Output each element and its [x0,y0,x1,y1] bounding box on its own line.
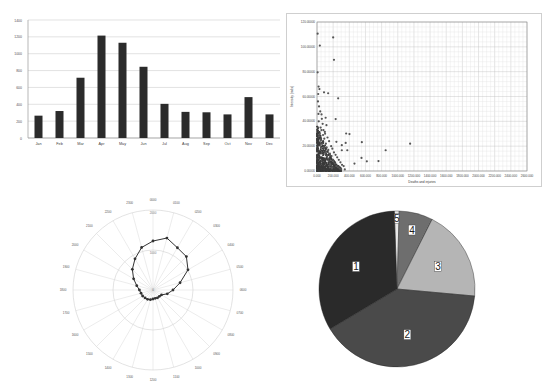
scatter-point [329,153,331,155]
ring-label: 2000 [150,211,157,215]
x-tick-label: Sep [203,142,210,146]
scatter-point [338,159,340,161]
y-axis-label: Intensity (rads) [290,86,294,107]
x-tick-label: Jun [140,142,146,146]
polar-axis-label: 2200 [105,210,112,214]
scatter-point [321,118,323,120]
scatter-point [340,168,342,170]
y-tick-label: 600 [16,86,22,90]
bar-feb [56,111,64,138]
polar-point [140,292,143,295]
pie-chart: 54321 [300,195,500,389]
scatter-point [366,160,368,162]
scatter-point [325,143,327,145]
scatter-point [319,158,321,160]
bar-chart: 0200400600800100012001400JanFebMarAprMay… [0,0,285,160]
scatter-point [330,155,332,157]
scatter-point [318,105,320,107]
scatter-point [320,136,322,138]
scatter-point [327,168,329,170]
polar-axis-label: 0900 [213,352,220,356]
polar-point [172,289,175,292]
scatter-point [320,139,322,141]
x-tick-label: Feb [56,142,63,146]
scatter-point [324,133,326,135]
scatter-point [317,145,319,147]
x-tick-label: Mar [77,142,84,146]
scatter-point [316,139,318,141]
scatter-point [325,117,327,119]
polar-axis-label: 0200 [195,210,202,214]
y-tick-label: 40.00000 [302,119,315,123]
scatter-point [335,141,337,143]
scatter-point [317,71,319,73]
scatter-chart-panel: 0.0000020.0000040.0000060.0000080.000001… [286,13,542,187]
scatter-point [323,168,325,170]
bar-may [119,43,127,138]
scatter-point [327,149,329,151]
scatter-point [317,150,319,152]
x-tick-label: 1400.000 [424,174,437,178]
x-axis-label: Deaths and injuries [408,180,436,184]
scatter-point [345,132,347,134]
y-tick-label: 60.00000 [302,95,315,99]
scatter-point [332,36,334,38]
scatter-point [317,100,319,102]
bar-aug [182,112,190,138]
scatter-point [317,146,319,148]
scatter-point [325,170,327,172]
scatter-point [317,113,319,115]
y-tick-label: 1200 [14,35,22,39]
polar-axis-label: 0300 [213,224,220,228]
bar-sep [203,112,211,138]
y-tick-label: 1400 [14,19,22,23]
scatter-point [317,33,319,35]
scatter-point [320,153,322,155]
x-tick-label: 200.000 [328,174,339,178]
scatter-point [348,133,350,135]
scatter-point [323,91,325,93]
scatter-chart: 0.0000020.0000040.0000060.0000080.000001… [287,14,541,186]
polar-point [131,268,134,271]
polar-point [185,255,188,258]
scatter-point [323,152,325,154]
polar-point [152,298,155,301]
scatter-point [322,129,324,131]
polar-point [135,284,138,287]
polar-spoke [153,290,230,311]
polar-axis-label: 2100 [86,224,93,228]
polar-axis-label: 0600 [240,288,247,292]
scatter-point [329,170,331,172]
polar-axis-label: 1700 [63,311,70,315]
scatter-point [353,162,355,164]
pie-chart-panel: 54321 [300,195,500,389]
scatter-point [322,123,324,125]
y-tick-label: 20.00000 [302,144,315,148]
scatter-point [361,141,363,143]
polar-axis-label: 1000 [195,366,202,370]
x-tick-label: Jan [35,142,41,146]
polar-spoke [153,269,230,290]
pie-label: 4 [409,225,415,236]
scatter-point [360,157,362,159]
scatter-point [332,159,334,161]
x-tick-label: Jul [162,142,167,146]
y-tick-label: 0 [20,137,22,141]
x-tick-label: 400.000 [344,174,355,178]
scatter-point [319,110,321,112]
scatter-point [317,166,319,168]
polar-chart: 0000010002000300040005000600070008000900… [55,190,255,389]
scatter-point [317,148,319,150]
polar-axis-label: 2300 [126,201,133,205]
scatter-point [317,155,319,157]
polar-axis-label: 1600 [72,333,79,337]
pie-label: 3 [435,261,441,272]
polar-axis-label: 1800 [60,288,67,292]
polar-spoke [153,290,222,330]
x-tick-label: Apr [99,142,106,146]
bar-nov [245,97,253,138]
polar-spoke [153,221,193,290]
polar-axis-label: 0500 [237,265,244,269]
scatter-point [318,164,320,166]
scatter-point [317,157,319,159]
